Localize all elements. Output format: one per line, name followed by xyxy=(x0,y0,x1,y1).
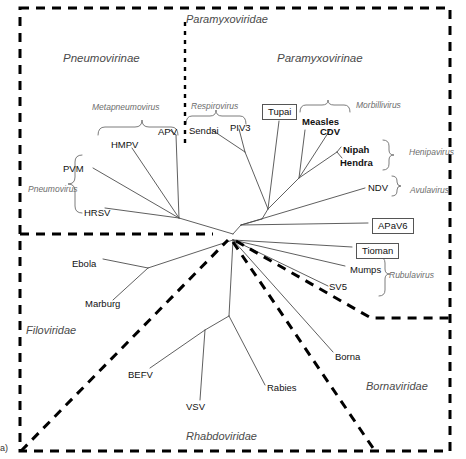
subfamily-label-paramyxovirinae: Paramyxovirinae xyxy=(277,53,363,65)
branch-hrsv xyxy=(105,208,179,218)
family-label-paramyxoviridae: Paramyxoviridae xyxy=(186,14,268,25)
tip-label-apav6: APaV6 xyxy=(372,218,414,234)
bracket-avulavirus xyxy=(392,176,401,196)
branch-apv-stem xyxy=(176,135,179,218)
branch-hmpv xyxy=(132,148,179,218)
tip-label-nipah: Nipah xyxy=(343,145,369,155)
tip-label-rabies: Rabies xyxy=(267,383,297,393)
branch-tupai xyxy=(268,121,279,209)
genus-label-morbillivirus: Morbillivirus xyxy=(356,101,401,110)
branch-tioman xyxy=(233,240,352,247)
tip-label-befv: BEFV xyxy=(128,370,153,380)
bracket-henipavirus xyxy=(383,140,394,170)
genus-label-rubulavirus: Rubulavirus xyxy=(389,271,434,280)
branch-morbilli-henipa-stem xyxy=(268,178,299,209)
phylogenetic-tree-figure: Paramyxoviridae Filoviridae Rhabdovirida… xyxy=(0,0,466,459)
tip-label-hrsv: HRSV xyxy=(84,208,110,218)
tip-label-tupai: Tupai xyxy=(262,104,297,120)
branch-rhabdo-stem xyxy=(229,240,233,316)
branch-befv xyxy=(150,330,205,368)
tip-label-apv: APV xyxy=(158,127,177,137)
branch-henipavirus-node xyxy=(299,152,337,178)
branch-ebola xyxy=(103,259,148,268)
branch-to-pneumovirinae xyxy=(179,218,233,234)
branch-mumps xyxy=(233,240,345,266)
genus-label-metapneumovirus: Metapneumovirus xyxy=(92,103,160,112)
genus-label-henipavirus: Henipavirus xyxy=(409,148,454,157)
subfamily-label-pneumovirinae: Pneumovirinae xyxy=(63,53,140,65)
genus-label-avulavirus: Avulavirus xyxy=(410,186,449,195)
boundary-rhabdoviridae-left xyxy=(21,240,228,451)
tip-label-piv3: PIV3 xyxy=(230,123,251,133)
panel-marker: a) xyxy=(0,443,8,453)
branch-vsv xyxy=(200,330,205,400)
tip-label-mumps: Mumps xyxy=(350,265,381,275)
tip-label-hendra: Hendra xyxy=(340,158,373,168)
tip-label-cdv: CDV xyxy=(320,127,340,137)
genus-label-pneumovirus: Pneumovirus xyxy=(28,185,78,194)
branch-ndv xyxy=(241,188,365,225)
tree-branches xyxy=(93,121,368,400)
tip-label-tioman: Tioman xyxy=(356,243,399,259)
family-label-bornaviridae: Bornaviridae xyxy=(366,381,428,392)
family-label-filoviridae: Filoviridae xyxy=(26,325,76,336)
tip-label-pvm: PVM xyxy=(63,164,84,174)
branch-sv5 xyxy=(233,240,328,286)
branch-rhabdo-node xyxy=(205,316,229,330)
tip-label-ndv: NDV xyxy=(368,183,388,193)
branch-borna xyxy=(233,240,333,352)
branch-respirovirus-node xyxy=(245,152,268,209)
branch-filo-node xyxy=(148,240,233,268)
branch-rabies xyxy=(229,316,265,385)
branch-marburg xyxy=(113,268,148,300)
tip-label-borna: Borna xyxy=(335,352,360,362)
family-label-rhabdoviridae: Rhabdoviridae xyxy=(186,431,257,442)
branch-nipah xyxy=(337,147,341,152)
tip-label-marburg: Marburg xyxy=(85,299,120,309)
tip-label-vsv: VSV xyxy=(186,402,205,412)
branch-apav6 xyxy=(241,223,368,225)
tip-label-hmpv: HMPV xyxy=(111,140,138,150)
branch-hub-core xyxy=(233,225,241,234)
bracket-morbillivirus xyxy=(300,100,350,112)
tip-label-sv5: SV5 xyxy=(329,282,347,292)
tip-label-sendai: Sendai xyxy=(189,126,219,136)
genus-label-respirovirus: Respirovirus xyxy=(191,102,238,111)
tip-label-ebola: Ebola xyxy=(72,259,96,269)
